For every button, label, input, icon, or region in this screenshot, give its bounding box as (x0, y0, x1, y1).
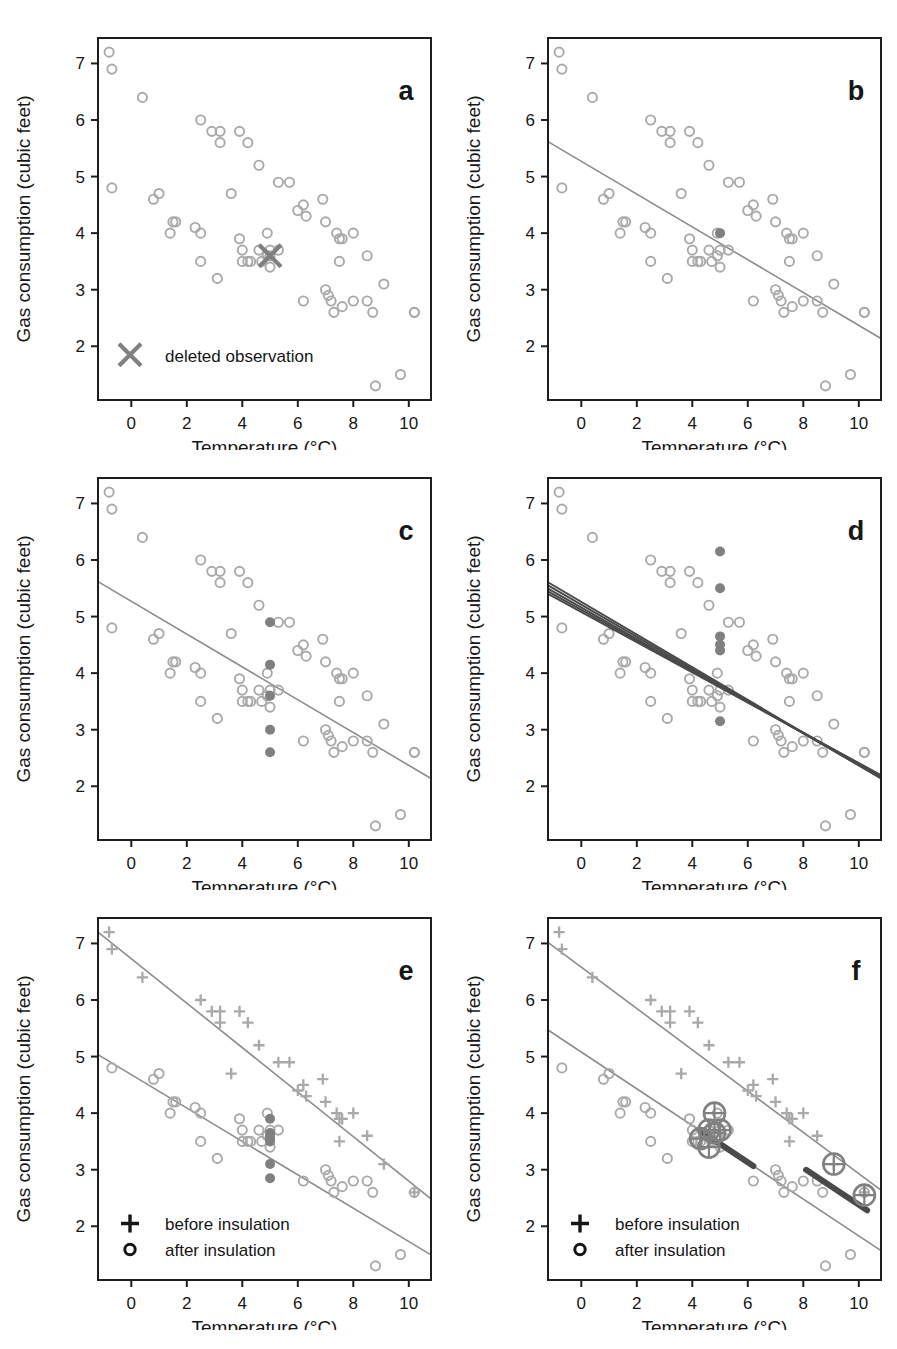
panel-label: b (848, 76, 865, 106)
data-point-open (735, 178, 744, 187)
data-point-plus (770, 1096, 781, 1107)
data-point-open (641, 1103, 650, 1112)
data-point-open (338, 742, 347, 751)
data-point-open (196, 1137, 205, 1146)
y-tick-label: 7 (526, 934, 535, 953)
data-point-open (371, 1261, 380, 1270)
y-tick-label: 7 (76, 54, 85, 73)
data-point-filled (265, 725, 275, 735)
x-tick-label: 2 (632, 854, 641, 873)
data-point-plus (104, 927, 115, 938)
legend: deleted observation (119, 344, 313, 366)
data-point-open (846, 810, 855, 819)
data-point-open (349, 229, 358, 238)
data-point-open (154, 629, 163, 638)
data-point-open (646, 669, 655, 678)
data-point-open (379, 719, 388, 728)
data-point-open (752, 212, 761, 221)
x-tick-label: 4 (238, 414, 247, 433)
data-point-open (302, 652, 311, 661)
data-point-open (821, 821, 830, 830)
data-point-open (743, 206, 752, 215)
data-point-open (363, 691, 372, 700)
data-point-open (154, 1069, 163, 1078)
y-tick-label: 5 (526, 1048, 535, 1067)
panel-svg-a: 0246810234567Temperature (°C)Gas consump… (0, 0, 447, 450)
data-point-open (321, 657, 330, 666)
data-point-open (243, 578, 252, 587)
data-point-open (216, 138, 225, 147)
data-point-open (349, 1176, 358, 1185)
data-point-open (788, 302, 797, 311)
x-tick-label: 2 (632, 414, 641, 433)
data-layer (105, 48, 419, 391)
data-point-open (663, 274, 672, 283)
data-point-plus (320, 1096, 331, 1107)
data-point-open (257, 1137, 266, 1146)
data-point-open (749, 1176, 758, 1185)
data-point-open (396, 370, 405, 379)
y-tick-label: 2 (526, 1217, 535, 1236)
data-point-filled (265, 617, 275, 627)
data-layer (555, 488, 869, 831)
data-point-open (557, 623, 566, 632)
data-point-open (410, 748, 419, 757)
data-point-open (860, 748, 869, 757)
data-point-open (349, 296, 358, 305)
y-tick-label: 6 (76, 111, 85, 130)
data-point-open (329, 748, 338, 757)
x-tick-label: 8 (799, 1294, 808, 1313)
data-point-open (724, 178, 733, 187)
data-point-open (265, 702, 274, 711)
data-point-open (107, 1063, 116, 1072)
data-point-open (704, 246, 713, 255)
data-point-open (555, 488, 564, 497)
y-tick-label: 4 (76, 1104, 85, 1123)
y-tick-label: 5 (526, 168, 535, 187)
data-point-open (363, 1176, 372, 1185)
data-point-open (821, 1261, 830, 1270)
data-point-open (749, 296, 758, 305)
data-point-open (785, 697, 794, 706)
data-point-open (799, 736, 808, 745)
data-point-open (191, 223, 200, 232)
data-point-open (274, 178, 283, 187)
data-point-plus (676, 1068, 687, 1079)
data-point-open (263, 669, 272, 678)
data-point-open (285, 178, 294, 187)
y-axis-label: Gas consumption (cubic feet) (463, 975, 484, 1222)
y-tick-label: 2 (526, 777, 535, 796)
data-point-open (788, 1182, 797, 1191)
data-point-open (166, 669, 175, 678)
data-point-open (788, 742, 797, 751)
x-tick-label: 8 (349, 1294, 358, 1313)
y-tick-label: 6 (76, 991, 85, 1010)
data-point-open (235, 674, 244, 683)
data-point-plus (317, 1074, 328, 1085)
data-point-plus (226, 1068, 237, 1079)
data-point-open (604, 189, 613, 198)
data-point-plus (684, 1006, 695, 1017)
legend-label: before insulation (615, 1215, 740, 1234)
data-point-open (588, 93, 597, 102)
data-point-open (646, 115, 655, 124)
x-tick-label: 4 (688, 414, 697, 433)
data-point-plus (195, 994, 206, 1005)
data-point-plus (253, 1040, 264, 1051)
data-point-open (599, 195, 608, 204)
data-point-plus (301, 1091, 312, 1102)
data-point-open (663, 1154, 672, 1163)
data-point-open (616, 669, 625, 678)
data-point-open (329, 308, 338, 317)
data-point-open (235, 127, 244, 136)
data-point-plus (348, 1108, 359, 1119)
data-point-open (743, 646, 752, 655)
x-axis-label: Temperature (°C) (192, 1317, 338, 1330)
data-point-filled (265, 1114, 275, 1124)
data-point-plus (784, 1136, 795, 1147)
data-point-open (588, 533, 597, 542)
data-point-open (646, 229, 655, 238)
data-point-plus (362, 1130, 373, 1141)
panel-f: 0246810234567Temperature (°C)Gas consump… (450, 880, 897, 1330)
data-point-open (860, 308, 869, 317)
